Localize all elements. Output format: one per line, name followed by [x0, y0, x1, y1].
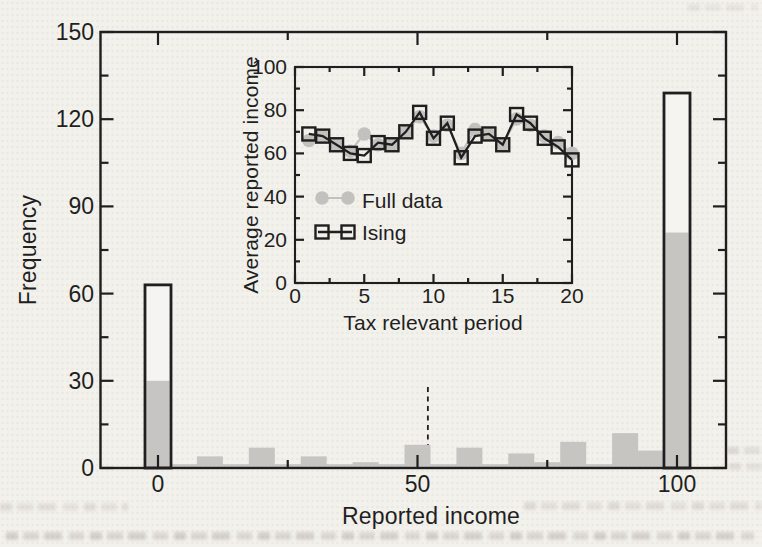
legend-full-data-marker — [315, 191, 329, 205]
main-y-tick-label: 60 — [68, 281, 94, 307]
main-y-axis-title: Frequency — [17, 195, 40, 305]
legend-label-full-data: Full data — [362, 190, 443, 211]
histogram-bar — [666, 233, 689, 469]
inset-plot-frame — [295, 67, 572, 283]
scan-bleed-line — [727, 447, 762, 454]
inset-y-tick-label: 0 — [275, 271, 287, 294]
main-y-tick-label: 0 — [81, 455, 94, 481]
inset-y-tick-label: 20 — [264, 228, 287, 251]
legend-full-data-marker — [341, 191, 355, 205]
scan-bleed-line — [729, 463, 762, 470]
inset-x-tick-label: 0 — [289, 284, 301, 307]
histogram-bar — [456, 448, 482, 469]
inset-y-axis-title: Average reported income — [240, 56, 261, 294]
histogram-bar — [197, 456, 223, 468]
histogram-bar — [508, 453, 534, 468]
main-plot-frame — [101, 32, 727, 468]
histogram-bar — [560, 442, 586, 469]
main-y-tick-label: 30 — [68, 368, 94, 394]
main-x-axis-title: Reported income — [342, 505, 520, 528]
inset-y-tick-label: 80 — [264, 98, 287, 121]
inset-x-tick-label: 20 — [560, 284, 583, 307]
scan-bleed-line — [688, 4, 758, 11]
inset-x-tick-label: 10 — [422, 284, 445, 307]
scan-bleed-line — [524, 502, 762, 510]
scan-bleed-line — [0, 503, 128, 511]
main-y-tick-label: 90 — [68, 193, 94, 219]
inset-x-tick-label: 15 — [491, 284, 514, 307]
scan-bleed-line — [6, 532, 754, 540]
inset-y-tick-label: 40 — [264, 185, 287, 208]
main-y-tick-label: 150 — [56, 19, 94, 45]
main-x-tick-label: 50 — [405, 471, 431, 497]
histogram-bar — [301, 456, 327, 468]
inset-x-tick-label: 5 — [358, 284, 370, 307]
histogram-bar — [249, 448, 275, 469]
histogram-bar — [612, 433, 638, 468]
legend-label-ising: Ising — [362, 222, 406, 243]
inset-y-tick-label: 60 — [264, 141, 287, 164]
main-x-tick-label: 0 — [152, 471, 165, 497]
scanned-figure-page: 030609012015005010002040608010005101520 … — [0, 0, 762, 547]
full-data-point — [357, 127, 371, 141]
main-x-tick-label: 100 — [658, 471, 696, 497]
histogram-bar — [638, 451, 664, 469]
main-y-tick-label: 120 — [56, 106, 94, 132]
figure-canvas: 030609012015005010002040608010005101520 — [0, 0, 762, 547]
inset-x-axis-title: Tax relevant period — [343, 312, 522, 333]
